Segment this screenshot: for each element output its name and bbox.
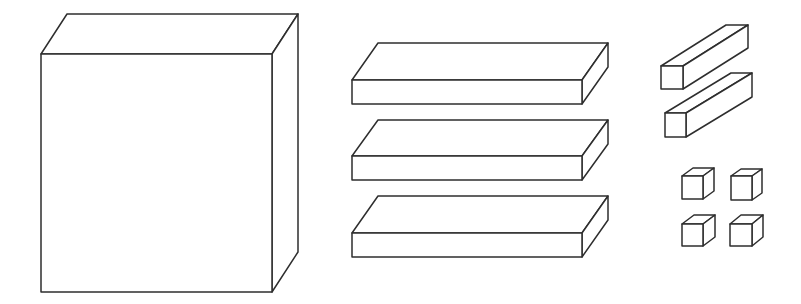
- unit-cube-block: [730, 215, 763, 246]
- front-face: [352, 156, 582, 180]
- flats-group: [352, 43, 608, 257]
- top-face: [352, 196, 608, 233]
- flat-block: [352, 120, 608, 180]
- diagram-canvas: [0, 0, 801, 304]
- front-face: [731, 176, 752, 200]
- front-face: [665, 113, 686, 137]
- flat-block: [352, 43, 608, 104]
- large-cube-group: [41, 14, 298, 292]
- top-face: [352, 43, 608, 80]
- large-cube-block: [41, 14, 298, 292]
- unit-cube-block: [682, 215, 715, 246]
- rods-group: [661, 25, 752, 137]
- front-face: [682, 176, 703, 199]
- top-face: [352, 120, 608, 156]
- base-ten-blocks-diagram: [0, 0, 801, 304]
- front-face: [730, 224, 752, 246]
- front-face: [661, 66, 683, 89]
- front-face: [352, 80, 582, 104]
- front-face: [352, 233, 582, 257]
- flat-block: [352, 196, 608, 257]
- unit-cube-block: [731, 169, 762, 200]
- front-face: [682, 224, 703, 246]
- side-face: [272, 14, 298, 292]
- unit-cube-block: [682, 168, 714, 199]
- top-face: [41, 14, 298, 54]
- unit-cubes-group: [682, 168, 763, 246]
- front-face: [41, 54, 272, 292]
